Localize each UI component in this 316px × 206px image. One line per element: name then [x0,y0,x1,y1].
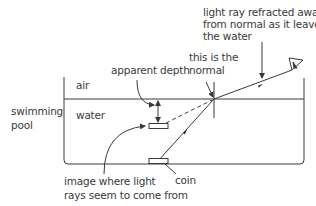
incident-ray-arrow-icon [183,128,188,134]
light-ray-label-line2: from normal as it leaves [203,18,316,30]
apparent-depth-label: apparent depth [111,64,190,76]
eye-icon [289,58,303,70]
coin-label: coin [175,174,196,186]
refracted-ray-arrow-icon [258,84,263,88]
coin-pointer [165,164,176,174]
swimming-pool-label-line1: swimming [11,105,63,117]
image-label-line2: rays seem to come from [64,189,188,201]
water-label: water [76,109,106,121]
light-ray-label-line1: light ray refracted away [203,6,316,18]
coin [149,159,168,164]
light-ray-label: light ray refracted away from normal as … [203,6,316,42]
refraction-diagram: light ray refracted away from normal as … [0,0,316,206]
virtual-ray-dashed [166,100,212,123]
normal-label-line2: normal [189,64,225,76]
image-pointer [104,126,145,174]
image-label-line1: image where light [64,175,156,187]
swimming-pool-label-line2: pool [11,119,33,131]
image-label: image where light rays seem to come from [64,175,188,201]
light-ray-label-line3: the water [203,30,253,42]
normal-label: this is the normal [189,51,238,76]
air-label: air [76,79,90,91]
normal-pointer [206,82,213,97]
refracted-ray [214,70,292,99]
coin-image [149,124,168,129]
apparent-depth-pointer [137,80,154,105]
normal-label-line1: this is the [189,51,238,63]
swimming-pool-label: swimming pool [11,105,63,131]
